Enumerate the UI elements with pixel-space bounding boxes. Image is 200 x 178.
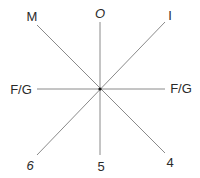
label-left: F/G xyxy=(10,83,32,96)
label-bottom-right: 4 xyxy=(166,156,173,169)
center-dot xyxy=(98,87,101,90)
compass-star-diagram: M O I F/G F/G 6 5 4 xyxy=(0,0,200,178)
label-bottom-left: 6 xyxy=(26,159,33,172)
label-bottom: 5 xyxy=(97,160,104,173)
label-top: O xyxy=(95,7,105,20)
label-top-right: I xyxy=(168,9,172,22)
label-right: F/G xyxy=(170,82,192,95)
label-top-left: M xyxy=(27,10,38,23)
